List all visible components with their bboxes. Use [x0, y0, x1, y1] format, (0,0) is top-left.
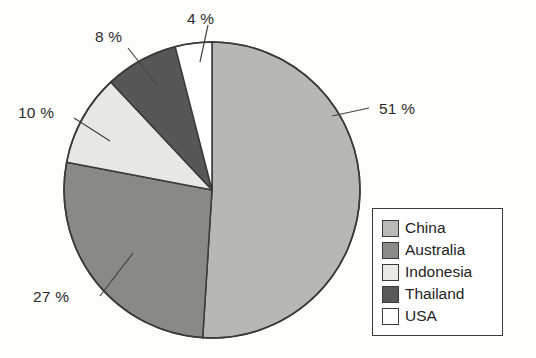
chart-canvas: 51 % 27 % 10 % 8 % 4 % ChinaAustraliaInd…	[0, 0, 536, 358]
legend-item-usa[interactable]: USA	[382, 305, 472, 327]
legend-swatch-china	[382, 220, 399, 237]
legend-label-indonesia: Indonesia	[405, 264, 472, 280]
chart-legend: ChinaAustraliaIndonesiaThailandUSA	[372, 208, 503, 336]
legend-swatch-thailand	[382, 286, 399, 303]
pie-slice-australia[interactable]	[64, 162, 212, 337]
slice-percent-usa: 4 %	[187, 10, 214, 28]
slice-percent-thailand: 8 %	[95, 28, 122, 46]
legend-label-usa: USA	[405, 308, 437, 324]
legend-swatch-australia	[382, 242, 399, 259]
slice-percent-australia: 27 %	[33, 288, 69, 306]
legend-label-china: China	[405, 220, 446, 236]
legend-item-australia[interactable]: Australia	[382, 239, 472, 261]
legend-item-indonesia[interactable]: Indonesia	[382, 261, 472, 283]
legend-label-australia: Australia	[405, 242, 465, 258]
pie-slice-china[interactable]	[203, 42, 360, 338]
legend-item-thailand[interactable]: Thailand	[382, 283, 472, 305]
legend-swatch-indonesia	[382, 264, 399, 281]
legend-item-china[interactable]: China	[382, 217, 472, 239]
legend-swatch-usa	[382, 308, 399, 325]
pie-slices	[64, 42, 360, 338]
slice-percent-indonesia: 10 %	[18, 104, 54, 122]
legend-items: ChinaAustraliaIndonesiaThailandUSA	[382, 217, 472, 327]
slice-percent-china: 51 %	[379, 100, 415, 118]
legend-label-thailand: Thailand	[405, 286, 464, 302]
